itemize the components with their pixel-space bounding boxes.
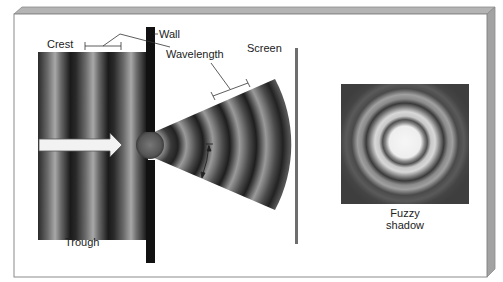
wavelength-label: Wavelength [166,48,224,60]
diffraction-diagram: Crest Wall Wavelength Screen Trough Fuzz… [0,0,503,282]
diffraction-pattern [341,84,469,204]
panel-top-bevel [14,7,495,14]
screen-label: Screen [247,42,282,54]
screen [295,48,298,244]
panel-right-bevel [487,7,495,277]
fuzzy-shadow-label: Fuzzy shadow [380,207,430,231]
wall-label: Wall [159,28,180,40]
crest-label: Crest [47,38,73,50]
fuzzy-shadow-line1: Fuzzy [380,207,430,219]
fuzzy-shadow-line2: shadow [380,219,430,231]
trough-label: Trough [65,236,99,248]
